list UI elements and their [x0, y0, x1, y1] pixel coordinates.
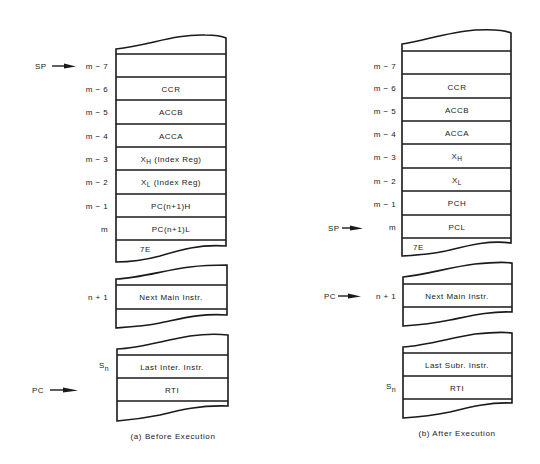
- svg-text:m − 5: m − 5: [374, 107, 396, 116]
- svg-text:m − 4: m − 4: [86, 132, 108, 141]
- svg-text:m − 6: m − 6: [86, 85, 108, 94]
- svg-text:m − 3: m − 3: [86, 155, 108, 164]
- caption-before-execution: (a) Before Execution: [131, 432, 216, 441]
- routine-cell-last-subr-instr: Last Subr. Instr.: [425, 361, 489, 370]
- pc-pointer: PC: [32, 386, 78, 395]
- main-address-label: n + 1: [88, 293, 108, 302]
- stack-cell-xl: XL (Index Reg): [141, 178, 201, 188]
- svg-text:m − 6: m − 6: [374, 84, 396, 93]
- stack-memory-block: CCR ACCB ACCA XH (Index Reg) XL (Index R…: [116, 35, 226, 262]
- interrupt-routine-block: Last Inter. Instr. RTI Sn: [99, 334, 228, 421]
- routine-cell-rti: RTI: [165, 386, 179, 395]
- stack-cell-pcl: PC(n+1)L: [152, 225, 191, 234]
- svg-text:m − 7: m − 7: [86, 62, 108, 71]
- stack-cell-pch: PCH: [448, 199, 466, 208]
- sp-label: SP: [35, 62, 46, 71]
- stack-cell-acca: ACCA: [159, 132, 183, 141]
- svg-text:m − 4: m − 4: [374, 130, 396, 139]
- main-program-block: Next Main Instr. n + 1: [376, 262, 512, 326]
- panel-before-execution: CCR ACCB ACCA XH (Index Reg) XL (Index R…: [32, 35, 228, 441]
- stack-cell-acca: ACCA: [445, 129, 469, 138]
- sp-pointer: SP: [328, 224, 363, 233]
- stack-cell-7e: 7E: [140, 245, 151, 254]
- svg-text:m − 2: m − 2: [86, 178, 108, 187]
- stack-address-labels: m − 7 m − 6 m − 5 m − 4 m − 3 m − 2 m − …: [86, 62, 108, 234]
- svg-text:m − 7: m − 7: [374, 62, 396, 71]
- sp-pointer: SP: [35, 62, 76, 71]
- svg-text:m − 1: m − 1: [374, 200, 396, 209]
- stack-cell-ccr: CCR: [162, 85, 181, 94]
- stack-address-labels: m − 7 m − 6 m − 5 m − 4 m − 3 m − 2 m − …: [374, 62, 396, 232]
- routine-cell-rti: RTI: [450, 384, 464, 393]
- sp-label: SP: [328, 224, 339, 233]
- svg-text:m − 5: m − 5: [86, 108, 108, 117]
- caption-after-execution: (b) After Execution: [418, 429, 495, 438]
- svg-text:m − 3: m − 3: [374, 153, 396, 162]
- pc-label: PC: [32, 386, 44, 395]
- main-cell-next-main-instr: Next Main Instr.: [425, 292, 489, 301]
- main-program-block: Next Main Instr. n + 1: [88, 265, 227, 328]
- main-cell-next-main-instr: Next Main Instr.: [139, 293, 203, 302]
- routine-address-sn: Sn: [99, 361, 109, 372]
- pc-label: PC: [324, 292, 336, 301]
- stack-cell-accb: ACCB: [445, 106, 469, 115]
- stack-cell-7e: 7E: [413, 243, 424, 252]
- svg-text:m: m: [101, 225, 108, 234]
- routine-cell-last-inter-instr: Last Inter. Instr.: [140, 363, 204, 372]
- panel-after-execution: CCR ACCB ACCA XH XL PCH PCL 7E m − 7 m −…: [324, 30, 512, 438]
- stack-cell-pch: PC(n+1)H: [151, 202, 191, 211]
- svg-text:m: m: [389, 223, 396, 232]
- stack-cell-pcl: PCL: [448, 223, 465, 232]
- stack-cell-accb: ACCB: [159, 108, 183, 117]
- stack-memory-block: CCR ACCB ACCA XH XL PCH PCL 7E: [402, 30, 511, 256]
- svg-text:m − 1: m − 1: [86, 202, 108, 211]
- main-address-label: n + 1: [376, 292, 396, 301]
- subroutine-block: Last Subr. Instr. RTI Sn: [386, 332, 512, 418]
- routine-address-sn: Sn: [386, 382, 396, 393]
- svg-text:m − 2: m − 2: [374, 177, 396, 186]
- stack-cell-ccr: CCR: [448, 83, 467, 92]
- pc-pointer: PC: [324, 292, 361, 301]
